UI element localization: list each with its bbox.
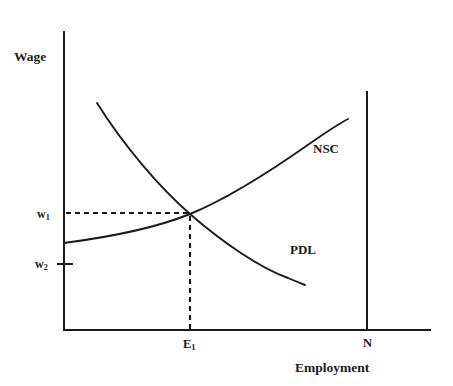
x-axis-title: Employment [295, 361, 369, 375]
wage-employment-diagram: Wage w1 w2 NSC PDL E1 N Employment [0, 0, 453, 386]
pdl-curve [97, 103, 305, 285]
pdl-curve-label: PDL [290, 243, 316, 256]
employment-1-label: E1 [183, 338, 196, 351]
diagram-canvas [0, 0, 453, 386]
wage-2-label: w2 [35, 258, 48, 270]
labor-force-label: N [363, 337, 372, 350]
wage-1-label-text: w [37, 207, 46, 221]
employment-1-label-sub: 1 [191, 342, 195, 352]
wage-1-label-sub: 1 [46, 213, 50, 222]
nsc-curve-label: NSC [313, 142, 339, 155]
wage-2-label-sub: 2 [44, 263, 48, 272]
wage-1-label: w1 [37, 208, 50, 220]
wage-2-label-text: w [35, 257, 44, 271]
nsc-curve [64, 119, 348, 243]
y-axis-title: Wage [14, 50, 46, 64]
